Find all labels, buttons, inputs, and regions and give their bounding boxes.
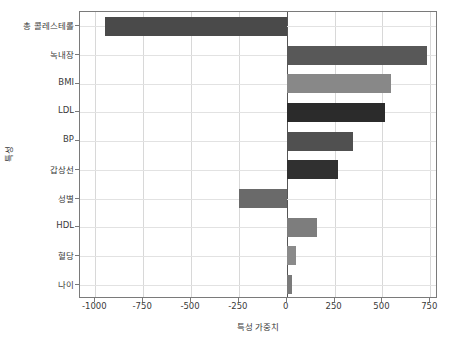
y-tick-label: 녹내장 [0,48,74,60]
horizontal-gridline [80,285,436,286]
y-tick-label: 나이 [0,278,74,290]
y-tick-label: LDL [0,105,74,115]
bar [287,74,391,93]
y-tick-label: BP [0,134,74,144]
x-axis-title: 특성 가중치 [79,320,437,332]
bar [287,46,428,65]
horizontal-gridline [80,141,436,142]
bar [105,17,287,36]
horizontal-gridline [80,256,436,257]
horizontal-gridline [80,227,436,228]
x-tick-label: 750 [399,301,451,311]
bar [287,160,339,179]
y-tick-label: HDL [0,220,74,230]
y-tick-label: BMI [0,77,74,87]
plot-area [79,11,437,298]
bar [287,132,353,151]
bar [287,246,296,265]
bar [287,218,318,237]
y-tick-label: 성별 [0,192,74,204]
y-tick-label: 갑상선 [0,163,74,175]
horizontal-gridline [80,170,436,171]
bar [287,103,386,122]
y-tick-label: 혈당 [0,249,74,261]
y-tick-label: 총 콜레스테롤 [0,19,74,31]
bar [287,275,293,294]
bar-chart-figure: 특성 총 콜레스테롤녹내장BMILDLBP갑상선성별HDL혈당나이 -1000-… [0,0,451,342]
bar [239,189,287,208]
